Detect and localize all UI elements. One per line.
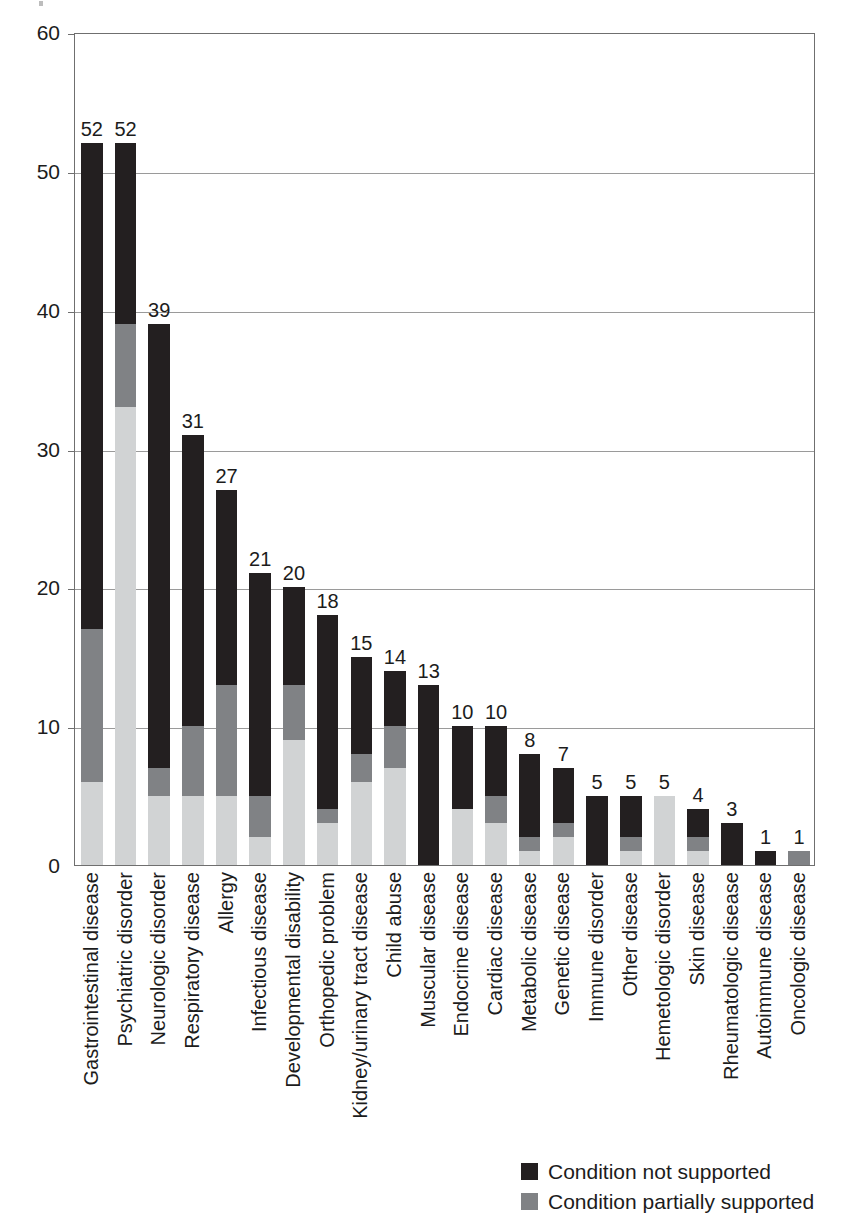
x-axis-label-slot: Skin disease	[686, 872, 708, 1112]
bar-segment	[620, 851, 642, 865]
bar-stack	[249, 573, 271, 865]
legend-item: Condition not supported	[521, 1160, 847, 1183]
y-axis-tick-label: 10	[4, 716, 60, 737]
x-axis-label-slot: Autoimmune disease	[754, 872, 776, 1112]
bar-value-label: 5	[625, 772, 636, 792]
bar-stack	[788, 851, 810, 865]
x-axis-category-label: Metabolic disease	[519, 872, 539, 1032]
bar-segment	[216, 490, 238, 684]
legend-item-label: Condition partially supported	[548, 1190, 814, 1213]
x-axis-category-label: Hemetologic disorder	[653, 872, 673, 1061]
bar-segment	[553, 768, 575, 824]
bar-segment	[418, 685, 440, 865]
bar-segment	[249, 837, 271, 865]
bar-segment	[485, 726, 507, 795]
page-artifact-mark	[39, 1, 43, 6]
bar-segment	[115, 143, 137, 323]
bar-stack	[620, 796, 642, 865]
bar-value-label: 15	[350, 633, 372, 653]
bar-value-label: 52	[81, 119, 103, 139]
y-tick-mark	[68, 34, 75, 35]
bar-segment	[148, 768, 170, 796]
y-tick-mark	[68, 451, 75, 452]
bar-column: 5	[620, 34, 642, 865]
y-axis-tick-label: 20	[4, 577, 60, 598]
x-axis-label-slot: Other disease	[619, 872, 641, 1112]
bar-value-label: 20	[283, 563, 305, 583]
y-axis-tick-label: 30	[4, 439, 60, 460]
x-axis-label-slot: Child abuse	[383, 872, 405, 1112]
bar-column: 10	[485, 34, 507, 865]
bar-column: 3	[721, 34, 743, 865]
bar-segment	[687, 837, 709, 851]
bar-value-label: 1	[760, 827, 771, 847]
bar-value-label: 31	[182, 411, 204, 431]
x-axis-category-label: Autoimmune disease	[754, 872, 774, 1059]
bar-column: 10	[452, 34, 474, 865]
x-axis-label-slot: Metabolic disease	[518, 872, 540, 1112]
bar-segment	[755, 851, 777, 865]
x-axis-category-labels: Gastrointestinal diseasePsychiatric diso…	[74, 872, 815, 1112]
x-axis-category-label: Immune disorder	[586, 872, 606, 1022]
x-axis-category-label: Gastrointestinal disease	[81, 872, 101, 1085]
bar-column: 39	[148, 34, 170, 865]
bar-column: 4	[687, 34, 709, 865]
chart-canvas: 0102030405060 52523931272120181514131010…	[0, 0, 847, 1219]
bar-segment	[81, 782, 103, 865]
bar-segment	[519, 837, 541, 851]
bar-segment	[182, 796, 204, 865]
bar-segment	[317, 809, 339, 823]
bar-segment	[351, 657, 373, 754]
bar-value-label: 27	[215, 466, 237, 486]
x-axis-category-label: Psychiatric disorder	[115, 872, 135, 1047]
bar-segment	[553, 837, 575, 865]
bar-column: 52	[115, 34, 137, 865]
bar-segment	[182, 435, 204, 727]
bar-stack	[317, 615, 339, 865]
bar-segment	[519, 851, 541, 865]
bar-column: 13	[418, 34, 440, 865]
bar-segment	[351, 754, 373, 782]
bar-segment	[384, 671, 406, 727]
bar-column: 8	[519, 34, 541, 865]
bar-segment	[317, 823, 339, 865]
x-axis-label-slot: Developmental disability	[282, 872, 304, 1112]
x-axis-category-label: Allergy	[216, 872, 236, 933]
x-axis-label-slot: Kidney/urinary tract disease	[350, 872, 372, 1112]
y-axis-tick-label: 60	[4, 22, 60, 43]
bar-segment	[249, 796, 271, 838]
bar-value-label: 4	[693, 785, 704, 805]
bar-value-label: 21	[249, 549, 271, 569]
bar-segment	[351, 782, 373, 865]
bar-stack	[721, 823, 743, 865]
x-axis-label-slot: Immune disorder	[585, 872, 607, 1112]
bar-column: 14	[384, 34, 406, 865]
bar-column: 1	[788, 34, 810, 865]
x-axis-category-label: Respiratory disease	[182, 872, 202, 1049]
x-axis-label-slot: Oncologic disease	[787, 872, 809, 1112]
bar-segment	[148, 796, 170, 865]
bar-segment	[81, 143, 103, 629]
bar-column: 18	[317, 34, 339, 865]
bar-segment	[687, 809, 709, 837]
bar-stack	[519, 754, 541, 865]
bar-segment	[452, 809, 474, 865]
y-tick-mark	[68, 728, 75, 729]
bar-segment	[485, 823, 507, 865]
y-axis-tick-label: 50	[4, 161, 60, 182]
bar-segment	[148, 324, 170, 768]
bar-segment	[452, 726, 474, 809]
x-axis-category-label: Skin disease	[687, 872, 707, 985]
bar-value-label: 14	[384, 647, 406, 667]
bar-segment	[620, 796, 642, 838]
x-axis-category-label: Endocrine disease	[451, 872, 471, 1037]
y-axis-tick-label: 0	[4, 855, 60, 876]
x-axis-label-slot: Neurologic disorder	[147, 872, 169, 1112]
x-axis-label-slot: Genetic disease	[552, 872, 574, 1112]
y-tick-mark	[68, 589, 75, 590]
x-axis-label-slot: Allergy	[215, 872, 237, 1112]
bar-stack	[283, 587, 305, 865]
bar-segment	[249, 573, 271, 795]
bar-value-label: 10	[451, 702, 473, 722]
x-axis-category-label: Neurologic disorder	[148, 872, 168, 1045]
